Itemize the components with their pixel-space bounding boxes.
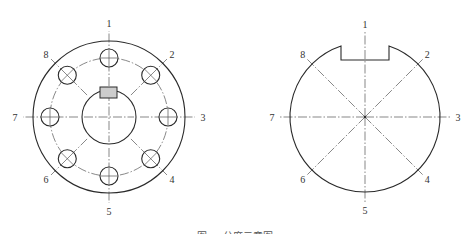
left-label-1: 1 — [107, 18, 112, 29]
right-radial-line-4 — [365, 117, 423, 175]
bolt-hole-2 — [142, 66, 160, 84]
bolt-hole-8 — [58, 66, 76, 84]
right-label-3: 3 — [456, 112, 461, 123]
right-label-7: 7 — [270, 112, 275, 123]
center-point — [364, 116, 366, 118]
bolt-hole-7 — [41, 108, 59, 126]
bolt-hole-3 — [159, 108, 177, 126]
figure-caption: 图 … 分度示意图 — [197, 230, 273, 234]
bolt-hole-6 — [58, 150, 76, 168]
right-label-4: 4 — [425, 174, 430, 185]
right-view-notched-disc: 12345678 — [270, 19, 461, 216]
left-label-5: 5 — [107, 206, 112, 217]
left-view-flange: 12345678 — [13, 18, 206, 217]
right-label-1: 1 — [363, 19, 368, 30]
keyway — [100, 87, 117, 98]
left-label-8: 8 — [44, 49, 49, 60]
right-radial-line-6 — [307, 117, 365, 175]
indexing-diagram: 12345678 12345678 图 … 分度示意图 — [0, 0, 470, 234]
left-label-6: 6 — [44, 174, 49, 185]
right-radial-line-2 — [365, 59, 423, 117]
left-label-7: 7 — [13, 112, 18, 123]
left-label-3: 3 — [201, 112, 206, 123]
right-label-5: 5 — [363, 205, 368, 216]
left-label-2: 2 — [169, 49, 174, 60]
right-label-2: 2 — [425, 49, 430, 60]
bolt-hole-1 — [100, 49, 118, 67]
right-label-6: 6 — [300, 174, 305, 185]
right-radial-line-8 — [307, 59, 365, 117]
bolt-hole-5 — [100, 167, 118, 185]
left-label-4: 4 — [169, 174, 174, 185]
bolt-hole-4 — [142, 150, 160, 168]
right-label-8: 8 — [300, 49, 305, 60]
